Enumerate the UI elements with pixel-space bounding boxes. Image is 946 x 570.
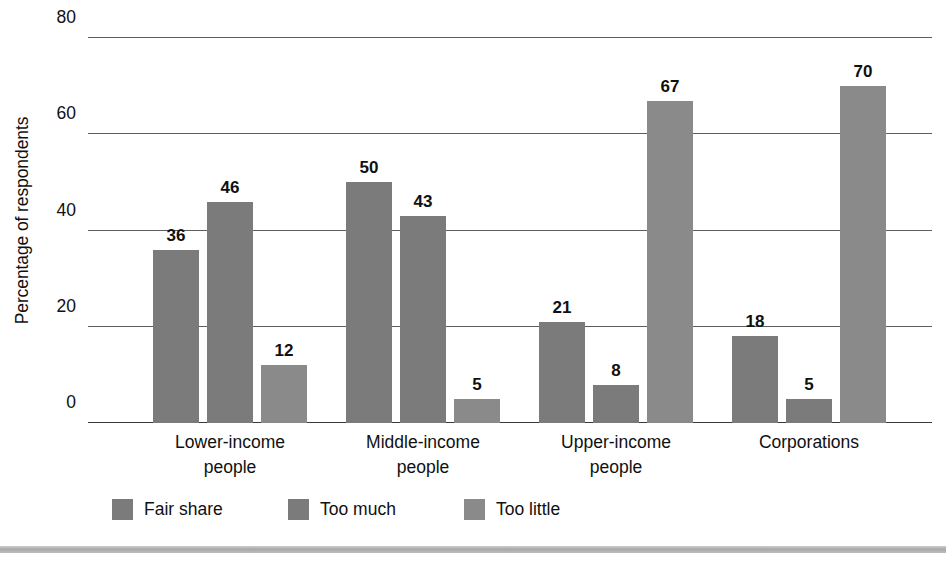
bar-chart-figure: Percentage of respondents 806040200 3646… [0, 0, 946, 570]
y-tick-label-80: 80 [57, 7, 76, 28]
legend-swatch-icon [112, 499, 133, 520]
bottom-rule-divider [0, 546, 946, 553]
bar: 12 [261, 365, 307, 423]
bar: 43 [400, 216, 446, 423]
y-tick-label-0: 0 [66, 392, 76, 413]
bar-group: 364612 [153, 38, 307, 423]
y-axis-title: Percentage of respondents [0, 0, 46, 440]
y-tick-label-60: 60 [57, 103, 76, 124]
legend-swatch-icon [464, 499, 485, 520]
bar-group: 21867 [539, 38, 693, 423]
x-category-label: Middle-incomepeople [313, 430, 533, 480]
bar-value-label: 5 [804, 375, 813, 395]
bar: 5 [454, 399, 500, 423]
legend-label: Fair share [144, 499, 223, 520]
bar-value-label: 43 [414, 192, 433, 212]
bar-value-label: 21 [553, 298, 572, 318]
x-category-label-line: Upper-income [506, 430, 726, 455]
bar: 5 [786, 399, 832, 423]
legend-item[interactable]: Too much [288, 499, 396, 520]
bar-value-label: 8 [611, 361, 620, 381]
bar-value-label: 46 [221, 178, 240, 198]
bar: 36 [153, 250, 199, 423]
plot-area: 806040200 364612504352186718570 [88, 38, 932, 423]
bar-value-label: 12 [275, 341, 294, 361]
x-category-label-line: Lower-income [120, 430, 340, 455]
bar-value-label: 36 [167, 226, 186, 246]
y-tick-label-20: 20 [57, 295, 76, 316]
x-category-label-line: people [313, 455, 533, 480]
bar: 18 [732, 336, 778, 423]
bar-value-label: 50 [360, 158, 379, 178]
bar-groups: 364612504352186718570 [88, 38, 932, 423]
legend-label: Too much [320, 499, 396, 520]
bar: 8 [593, 385, 639, 424]
legend-swatch-icon [288, 499, 309, 520]
bar: 50 [346, 182, 392, 423]
bar: 46 [207, 202, 253, 423]
bar: 21 [539, 322, 585, 423]
y-tick-label-40: 40 [57, 199, 76, 220]
x-category-label-line: Corporations [699, 430, 919, 455]
bar-value-label: 18 [746, 312, 765, 332]
legend-item[interactable]: Too little [464, 499, 560, 520]
x-axis-category-labels: Lower-incomepeopleMiddle-incomepeopleUpp… [88, 430, 932, 494]
y-axis-title-text: Percentage of respondents [13, 116, 34, 324]
bar-value-label: 5 [472, 375, 481, 395]
x-category-label: Upper-incomepeople [506, 430, 726, 480]
x-category-label-line: people [120, 455, 340, 480]
bar: 67 [647, 101, 693, 423]
x-category-label-line: people [506, 455, 726, 480]
bar-value-label: 70 [854, 62, 873, 82]
x-category-label: Lower-incomepeople [120, 430, 340, 480]
legend-item[interactable]: Fair share [112, 499, 223, 520]
bar-group: 18570 [732, 38, 886, 423]
bar-value-label: 67 [661, 77, 680, 97]
bar: 70 [840, 86, 886, 423]
legend-label: Too little [496, 499, 560, 520]
x-category-label-line: Middle-income [313, 430, 533, 455]
bar-group: 50435 [346, 38, 500, 423]
x-category-label: Corporations [699, 430, 919, 455]
